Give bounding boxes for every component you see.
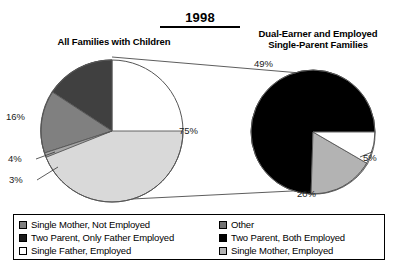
legend-swatch-icon [19, 234, 27, 242]
legend-item-label: Two Parent, Only Father Employed [31, 233, 174, 243]
legend-item[interactable]: Two Parent, Both Employed [219, 231, 384, 244]
value-label-75: 75% [179, 125, 198, 136]
legend-item[interactable]: Single Mother, Employed [219, 244, 384, 257]
legend-item-label: Single Mother, Not Employed [31, 220, 150, 230]
value-label-16: 16% [6, 111, 25, 122]
legend-swatch-icon [219, 234, 227, 242]
value-label-3: 3% [9, 174, 23, 185]
legend-swatch-icon [19, 247, 27, 255]
left-pie [41, 60, 183, 202]
legend-swatch-icon [19, 221, 27, 229]
value-label-49: 49% [254, 58, 273, 69]
legend-item-label: Single Father, Employed [31, 246, 131, 256]
legend-item-label: Other [231, 220, 254, 230]
value-label-5: 5% [363, 152, 377, 163]
connector-line-top [112, 57, 312, 74]
value-label-20: 20% [297, 188, 316, 199]
legend-column-left: Single Mother, Not EmployedTwo Parent, O… [19, 218, 219, 257]
value-label-4: 4% [8, 153, 22, 164]
legend-swatch-icon [219, 247, 227, 255]
legend-item-label: Two Parent, Both Employed [231, 233, 345, 243]
chart-legend: Single Mother, Not EmployedTwo Parent, O… [13, 214, 385, 260]
legend-column-right: OtherTwo Parent, Both EmployedSingle Mot… [219, 218, 384, 257]
right-pie [251, 70, 375, 194]
legend-item-label: Single Mother, Employed [231, 246, 333, 256]
legend-item[interactable]: Single Father, Employed [19, 244, 219, 257]
legend-item[interactable]: Two Parent, Only Father Employed [19, 231, 219, 244]
legend-item[interactable]: Single Mother, Not Employed [19, 218, 219, 231]
legend-swatch-icon [219, 221, 227, 229]
chart-figure: 1998 All Families with Children Dual-Ear… [0, 0, 399, 271]
legend-item[interactable]: Other [219, 218, 384, 231]
